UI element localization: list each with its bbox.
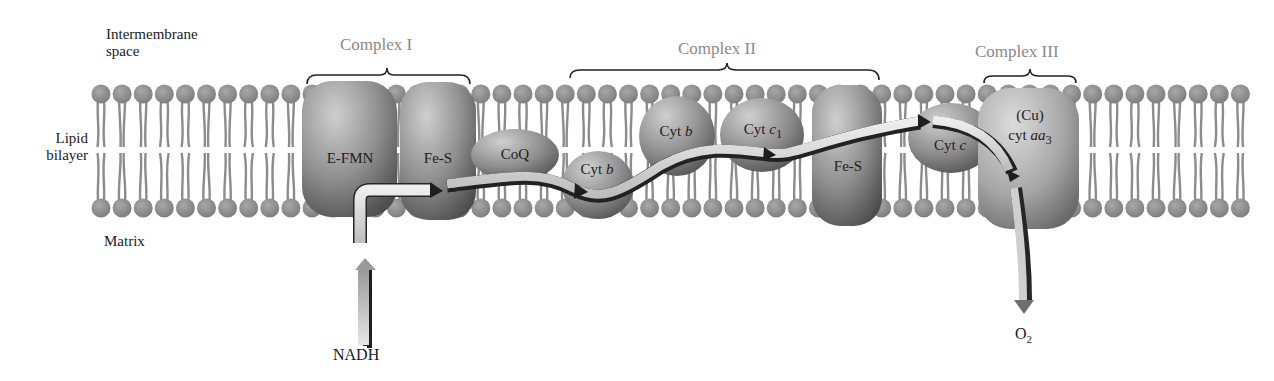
- cyt-aa3-label: cyt aa3: [990, 127, 1070, 148]
- protein-fe-s-2: [812, 85, 882, 226]
- cyt-c-italic: c: [959, 137, 966, 153]
- o2-label: O2: [1015, 325, 1032, 348]
- cyt-b-low-prefix: Cyt: [581, 161, 606, 177]
- e-fmn-label: E-FMN: [306, 150, 394, 167]
- fe-s-1-label: Fe-S: [402, 150, 474, 167]
- lipid-bilayer-label: Lipid bilayer: [26, 130, 88, 164]
- complex-braces: [307, 63, 1076, 84]
- matrix-label: Matrix: [104, 233, 145, 250]
- brace-complex-3: [984, 69, 1076, 83]
- cyt-b-high-prefix: Cyt: [660, 123, 685, 139]
- cyt-c-prefix: Cyt: [934, 137, 959, 153]
- intermembrane-label-line1: Intermembrane: [106, 26, 198, 43]
- cyt-c1-prefix: Cyt: [744, 121, 769, 137]
- nadh-arrow: [355, 258, 376, 348]
- cyt-aa3-sub: 3: [1045, 133, 1051, 147]
- cyt-aa3-prefix: cyt: [1008, 127, 1030, 143]
- lipid-label-line1: Lipid: [26, 130, 88, 147]
- brace-complex-2: [570, 63, 879, 80]
- intermembrane-space-label: Intermembrane space: [106, 26, 198, 60]
- coq-label: CoQ: [478, 146, 552, 163]
- cyt-b-high-italic: b: [685, 123, 693, 139]
- nadh-label: NADH: [333, 346, 379, 363]
- o2-text: O: [1015, 325, 1027, 342]
- o2-sub: 2: [1027, 333, 1033, 345]
- complex-3-label: Complex III: [975, 42, 1059, 62]
- electron-transport-chain-diagram: Intermembrane space Lipid bilayer Matrix…: [0, 0, 1274, 381]
- intermembrane-label-line2: space: [106, 43, 198, 60]
- cyt-c1-italic: c: [769, 121, 776, 137]
- fe-s-2-label: Fe-S: [816, 158, 880, 175]
- lipid-label-line2: bilayer: [26, 147, 88, 164]
- cyt-aa3-italic: aa: [1030, 127, 1045, 143]
- cu-label: (Cu): [990, 107, 1070, 124]
- complex-1-label: Complex I: [340, 35, 412, 55]
- cyt-b-high-label: Cyt b: [640, 123, 712, 140]
- cyt-c-label: Cyt c: [912, 137, 988, 154]
- complex-2-label: Complex II: [678, 39, 756, 59]
- cyt-c1-label: Cyt c1: [724, 121, 802, 142]
- cyt-b-low-label: Cyt b: [565, 161, 629, 178]
- cyt-c1-sub: 1: [776, 127, 782, 141]
- cyt-b-low-italic: b: [606, 161, 614, 177]
